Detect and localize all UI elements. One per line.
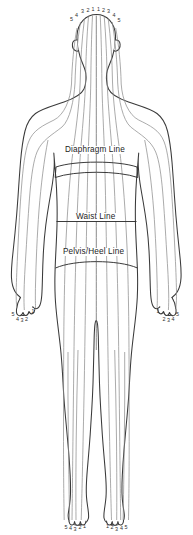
left-foot-zone-number-4: 1: [83, 523, 86, 529]
left-foot-zone-number-1: 4: [69, 525, 72, 531]
head-zone-number-1: 4: [75, 12, 78, 18]
left-hand-zone-number-3: 2: [25, 316, 28, 322]
head-zone-number-3: 2: [87, 7, 90, 13]
waist-line-label: Waist Line: [74, 213, 117, 221]
right-foot-zone-number-2: 3: [115, 526, 118, 532]
head-zone-number-8: 4: [113, 12, 116, 18]
head-zone-number-0: 5: [70, 16, 73, 22]
left-foot-zone-number-0: 5: [65, 524, 68, 530]
right-hand-zone-number-1: 2: [163, 316, 166, 322]
right-hand-zone-number-3: 4: [172, 316, 175, 322]
left-hand-zone-number-4: 1: [32, 308, 35, 314]
head-zone-number-6: 2: [102, 7, 105, 13]
right-foot-zone-number-4: 5: [125, 524, 128, 530]
head-zone-number-2: 3: [81, 8, 84, 14]
pelvis-heel-line-label: Pelvis/Heel Line: [61, 248, 126, 256]
body-zone-diagram: 5432112345 54321 12345 54321 12345 Diaph…: [0, 0, 193, 535]
diaphragm-line-label: Diaphragm Line: [63, 146, 127, 154]
left-foot-zone-number-2: 3: [74, 526, 77, 532]
right-foot-zone-number-1: 2: [111, 524, 114, 530]
right-foot-zone-number-3: 4: [120, 525, 123, 531]
left-hand-zone-number-2: 3: [21, 317, 24, 323]
head-zone-number-5: 1: [97, 6, 100, 12]
right-hand-zone-number-4: 5: [176, 311, 179, 317]
left-hand-zone-number-0: 5: [12, 311, 15, 317]
body-figure-svg: 5432112345 54321 12345 54321 12345: [0, 0, 193, 535]
head-zone-number-7: 3: [107, 8, 110, 14]
right-foot-zone-number-0: 1: [106, 523, 109, 529]
right-hand-zone-number-0: 1: [157, 308, 160, 314]
head-zone-number-9: 5: [118, 17, 121, 23]
head-zone-number-4: 1: [92, 6, 95, 12]
right-hand-zone-number-2: 3: [167, 317, 170, 323]
left-hand-zone-number-1: 4: [16, 316, 19, 322]
left-foot-zone-number-3: 2: [79, 524, 82, 530]
